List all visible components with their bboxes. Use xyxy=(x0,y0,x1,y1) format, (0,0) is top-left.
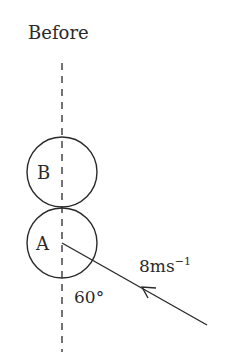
ball-b-label: B xyxy=(37,162,50,183)
angle-label: 60° xyxy=(74,287,104,307)
velocity-label: 8ms−1 xyxy=(139,255,191,276)
ball-a-label: A xyxy=(35,233,50,254)
collision-diagram: Before B A 8ms−1 60° xyxy=(0,0,225,355)
diagram-title: Before xyxy=(28,22,89,43)
